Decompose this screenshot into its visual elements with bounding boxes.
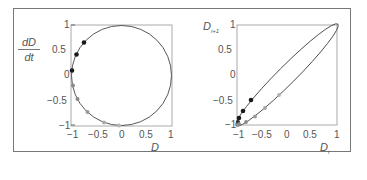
data-point-grey xyxy=(253,115,257,119)
right-plot-axes-box xyxy=(237,25,337,125)
data-point-black xyxy=(241,109,246,114)
data-point-grey xyxy=(237,122,241,126)
left-plot xyxy=(70,25,172,128)
return-map-ellipse-curve xyxy=(230,18,345,133)
right-plot xyxy=(230,18,345,133)
data-point-black xyxy=(70,68,75,73)
data-point-black xyxy=(74,52,79,57)
data-point-black xyxy=(249,98,254,103)
plots-canvas xyxy=(0,0,367,180)
data-point-grey xyxy=(244,120,248,124)
data-point-black xyxy=(237,116,242,121)
data-point-grey xyxy=(71,84,75,88)
data-point-black xyxy=(82,40,87,45)
data-point-grey xyxy=(117,124,121,128)
data-point-grey xyxy=(86,110,90,114)
data-point-grey xyxy=(263,106,267,110)
data-point-grey xyxy=(277,93,281,97)
data-point-grey xyxy=(102,121,106,125)
data-point-grey xyxy=(76,97,80,101)
